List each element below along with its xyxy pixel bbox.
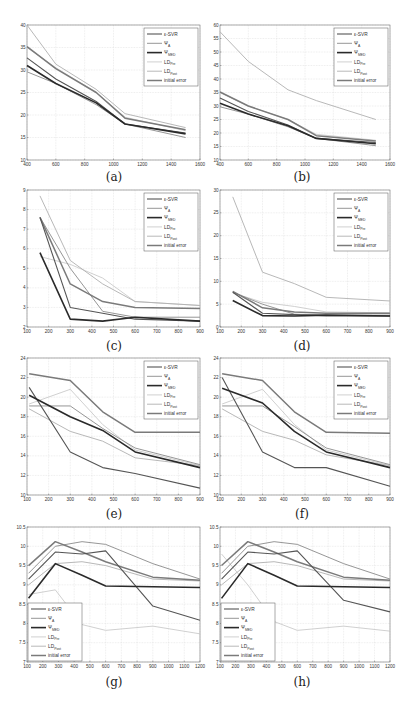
chart-panel-h: 1002003004005006007008009001000110012007… bbox=[0, 0, 416, 701]
svg-text:9: 9 bbox=[216, 582, 219, 587]
svg-text:500: 500 bbox=[278, 664, 286, 669]
svg-text:8.5: 8.5 bbox=[212, 602, 219, 607]
legend-label: ε-SVR bbox=[241, 607, 255, 612]
svg-text:1000: 1000 bbox=[354, 664, 365, 669]
svg-text:400: 400 bbox=[263, 664, 271, 669]
svg-text:300: 300 bbox=[247, 664, 255, 669]
svg-text:700: 700 bbox=[309, 664, 317, 669]
svg-text:10: 10 bbox=[213, 544, 219, 549]
svg-text:7: 7 bbox=[216, 660, 219, 665]
svg-text:900: 900 bbox=[340, 664, 348, 669]
svg-text:10.5: 10.5 bbox=[210, 525, 219, 530]
svg-text:1200: 1200 bbox=[385, 664, 396, 669]
svg-text:200: 200 bbox=[232, 664, 240, 669]
svg-text:100: 100 bbox=[216, 664, 224, 669]
svg-text:8: 8 bbox=[216, 621, 219, 626]
svg-text:800: 800 bbox=[324, 664, 332, 669]
caption-h: (h) bbox=[272, 675, 332, 689]
legend: ε-SVRΨAΨMEDLDPreLDPostinitial error bbox=[221, 603, 275, 661]
svg-text:7.5: 7.5 bbox=[212, 640, 219, 645]
svg-text:600: 600 bbox=[293, 664, 301, 669]
legend-label: initial error bbox=[241, 653, 264, 658]
svg-text:1100: 1100 bbox=[370, 664, 380, 669]
svg-text:9.5: 9.5 bbox=[212, 563, 219, 568]
chart-svg-h: 1002003004005006007008009001000110012007… bbox=[0, 0, 416, 701]
